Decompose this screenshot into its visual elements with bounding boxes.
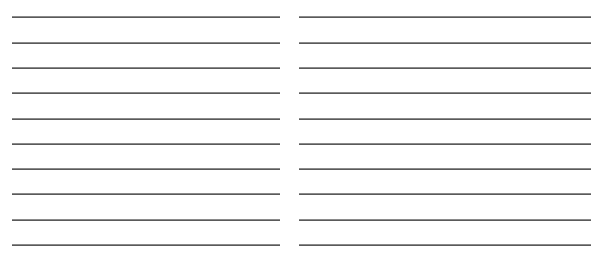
- writing-line: [12, 168, 280, 170]
- writing-line: [12, 42, 280, 44]
- writing-line: [299, 16, 591, 18]
- writing-line: [299, 244, 591, 246]
- writing-line: [12, 143, 280, 145]
- writing-line: [299, 143, 591, 145]
- writing-line: [299, 67, 591, 69]
- writing-line: [299, 92, 591, 94]
- writing-line: [12, 193, 280, 195]
- writing-line: [299, 168, 591, 170]
- writing-line: [299, 42, 591, 44]
- writing-line: [12, 92, 280, 94]
- writing-line: [299, 193, 591, 195]
- writing-line: [299, 118, 591, 120]
- writing-line: [12, 16, 280, 18]
- writing-line: [12, 67, 280, 69]
- writing-line: [299, 219, 591, 221]
- writing-line: [12, 118, 280, 120]
- writing-line: [12, 244, 280, 246]
- writing-line: [12, 219, 280, 221]
